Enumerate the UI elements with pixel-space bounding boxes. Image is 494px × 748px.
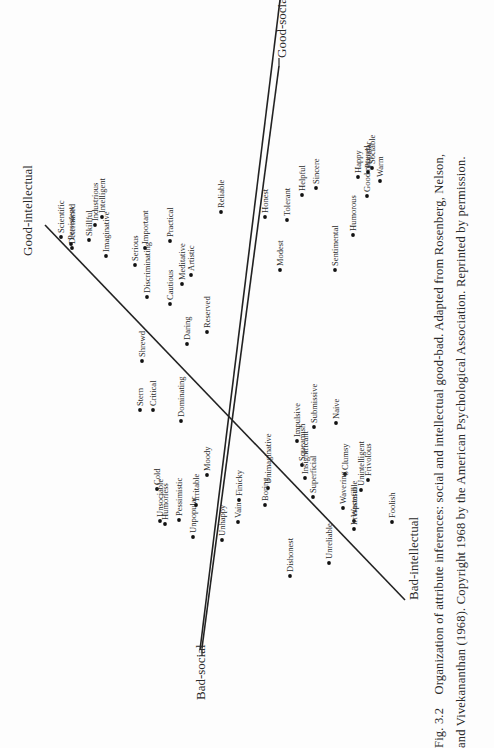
trait-dot — [219, 210, 223, 214]
trait-dot — [104, 254, 108, 258]
trait-dot — [303, 476, 307, 480]
trait-point: Frivolous — [363, 443, 373, 481]
trait-point: Sincere — [311, 158, 321, 190]
trait-label: Reliable — [216, 179, 226, 208]
trait-label: Boring — [260, 477, 270, 501]
trait-point: Determined — [67, 203, 77, 250]
trait-label: Moody — [202, 446, 212, 471]
trait-point: Finicky — [234, 469, 244, 502]
trait-dot — [180, 282, 184, 286]
trait-dot — [168, 302, 172, 306]
trait-label: Critical — [148, 380, 158, 406]
trait-label: Clumsy — [340, 443, 350, 470]
bad-social-label: Bad-social — [193, 644, 208, 700]
trait-point: Wavering — [338, 470, 348, 509]
trait-label: Scientific — [56, 200, 66, 233]
trait-point: Reserved — [202, 296, 212, 334]
trait-dot — [352, 527, 356, 531]
trait-point: Reliable — [216, 179, 226, 213]
trait-label: Foolish — [387, 492, 397, 518]
trait-point: Dishonest — [285, 537, 295, 578]
trait-dot — [205, 330, 209, 334]
trait-dot — [205, 473, 209, 477]
trait-label: Discriminating — [142, 241, 152, 293]
trait-point: Scientific — [56, 200, 66, 239]
figure-page: Good-intellectual Bad-intellectual Good-… — [0, 0, 494, 748]
trait-point: Dominating — [176, 376, 186, 423]
trait-point: Submissive — [309, 384, 319, 429]
trait-dot — [151, 408, 155, 412]
trait-label: Dishonest — [285, 537, 295, 572]
trait-dot — [312, 425, 316, 429]
trait-dot — [237, 498, 241, 502]
trait-point: Tolerant — [282, 187, 292, 222]
trait-dot — [189, 273, 193, 277]
trait-point: Pessimistic — [174, 478, 184, 522]
trait-point: Shrewd — [137, 330, 147, 363]
trait-label: Cautious — [165, 270, 175, 300]
trait-point: Warm — [375, 156, 385, 183]
trait-label: Reserved — [202, 296, 212, 328]
trait-dot — [168, 239, 172, 243]
trait-label: Stern — [135, 387, 145, 406]
trait-label: Practical — [165, 207, 175, 237]
trait-label: Artistic — [186, 245, 196, 271]
trait-label: Humorous — [348, 195, 358, 231]
trait-label: Determined — [67, 203, 77, 244]
trait-label: Important — [140, 210, 150, 244]
trait-dot — [311, 495, 315, 499]
trait-dot — [327, 561, 331, 565]
figure-caption-text: Organization of attribute inferences: so… — [432, 154, 468, 748]
trait-point: Unreliable — [324, 523, 334, 565]
trait-label: Serious — [130, 236, 140, 262]
trait-point: Stern — [135, 387, 145, 412]
trait-label: Finicky — [234, 469, 244, 496]
trait-label: Submissive — [309, 384, 319, 423]
social-axis-line-main — [202, 66, 279, 648]
trait-dot — [133, 263, 137, 267]
trait-label: Irritable — [191, 473, 201, 501]
trait-point: Practical — [165, 207, 175, 243]
trait-label: Helpful — [297, 164, 307, 191]
trait-label: Wavering — [338, 470, 348, 504]
trait-label: Dominating — [176, 376, 186, 417]
trait-dot — [179, 419, 183, 423]
trait-label: Frivolous — [363, 443, 373, 476]
trait-label: Happy — [353, 150, 363, 173]
trait-label: Sentimental — [330, 225, 340, 266]
trait-point: Unhappy — [217, 504, 227, 542]
trait-label: Daring — [182, 316, 192, 340]
trait-dot — [140, 359, 144, 363]
trait-dot — [351, 233, 355, 237]
trait-label: Modest — [275, 240, 285, 266]
trait-point: Imaginative — [101, 211, 111, 258]
trait-dot — [163, 522, 167, 526]
trait-dot — [70, 246, 74, 250]
trait-point: Clumsy — [340, 443, 350, 476]
trait-dot — [366, 478, 370, 482]
good-intellectual-label: Good-intellectual — [20, 165, 35, 256]
trait-dot — [366, 170, 370, 174]
trait-point: Moody — [202, 446, 212, 477]
trait-point: Superficial — [308, 455, 318, 499]
trait-label: Sincere — [311, 158, 321, 184]
trait-point: Humorous — [348, 195, 358, 237]
good-social-label: Good-social — [274, 0, 289, 58]
trait-point: Irresponsible — [349, 480, 359, 531]
trait-label: Tolerant — [282, 187, 292, 216]
trait-point: Honest — [260, 188, 270, 219]
trait-dot — [365, 194, 369, 198]
trait-label: Honest — [260, 188, 270, 213]
attribute-inference-diagram: Good-intellectual Bad-intellectual Good-… — [0, 0, 494, 748]
trait-point: Foolish — [387, 492, 397, 524]
trait-dot — [263, 215, 267, 219]
trait-label: Intelligent — [97, 177, 107, 213]
trait-point: Critical — [148, 380, 158, 412]
trait-point: Discriminating — [142, 241, 152, 299]
trait-dot — [87, 238, 91, 242]
trait-point: Unpopular — [188, 496, 198, 538]
trait-terms: ScientificPersistentDeterminedSkillfulIn… — [56, 135, 397, 578]
trait-dot — [370, 166, 374, 170]
trait-point: Humorless — [160, 483, 170, 526]
trait-label: Vain — [233, 502, 243, 518]
